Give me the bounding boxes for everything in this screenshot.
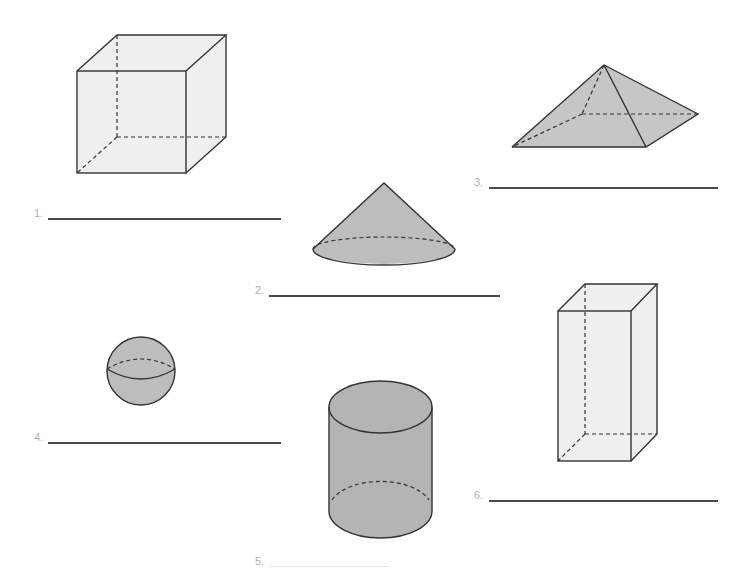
answer-line-4[interactable] [48, 442, 281, 444]
item-number-6: 6. [474, 490, 483, 501]
shapes-canvas [0, 0, 746, 568]
sphere-icon [107, 337, 175, 405]
rectangular-prism-icon [558, 284, 657, 461]
answer-line-1[interactable] [48, 218, 281, 220]
cube-icon [77, 35, 226, 173]
square-pyramid-icon [512, 65, 698, 147]
item-number-4: 4. [34, 432, 43, 443]
item-number-1: 1. [34, 208, 43, 219]
answer-line-3[interactable] [489, 187, 718, 189]
answer-line-5[interactable] [269, 566, 389, 567]
cone-icon [313, 183, 455, 265]
item-number-2: 2. [255, 285, 264, 296]
cylinder-icon [329, 381, 432, 538]
answer-line-2[interactable] [269, 295, 500, 297]
item-number-5: 5. [255, 556, 264, 567]
item-number-3: 3. [474, 177, 483, 188]
answer-line-6[interactable] [489, 500, 718, 502]
